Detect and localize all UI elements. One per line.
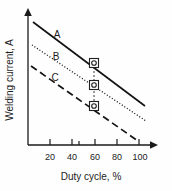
y-axis-arrow-icon — [24, 8, 32, 16]
x-tick-label: 80 — [112, 152, 122, 162]
x-axis-tick-labels: 20 40 60 80 100 — [45, 152, 148, 162]
series-label-b: B — [53, 51, 60, 62]
x-tick-label: 60 — [90, 152, 100, 162]
y-axis-title: Welding current, A — [4, 39, 15, 121]
series-label-a: A — [54, 29, 61, 40]
y-axis — [24, 8, 32, 145]
x-axis-title: Duty cycle, % — [61, 171, 122, 182]
marker-series-b — [90, 81, 99, 90]
x-tick-label: 40 — [67, 152, 77, 162]
x-axis-arrow-icon — [150, 141, 158, 149]
series-line-c — [31, 66, 138, 141]
marker-series-c — [90, 102, 99, 111]
marker-series-a — [90, 59, 99, 68]
x-tick-label: 20 — [45, 152, 55, 162]
welding-current-duty-cycle-chart: 20 40 60 80 100 A B C — [0, 0, 172, 191]
chart-canvas: 20 40 60 80 100 A B C — [0, 0, 172, 191]
x-tick-label: 100 — [132, 152, 147, 162]
series-label-c: C — [51, 72, 58, 83]
x-axis-ticks — [50, 139, 139, 145]
